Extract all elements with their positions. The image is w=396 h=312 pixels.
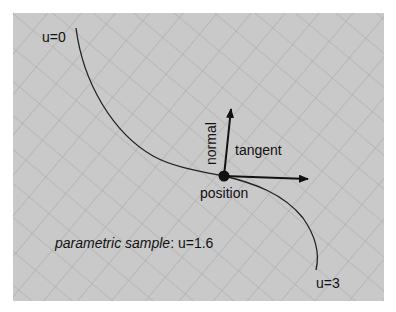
diagram-canvas: [13, 13, 384, 301]
tangent-label: tangent: [235, 142, 282, 158]
normal-label: normal: [203, 122, 219, 165]
start-label: u=0: [42, 29, 66, 45]
grid-background: [13, 13, 384, 301]
caption-value: : u=1.6: [170, 235, 213, 251]
caption-italic: parametric sample: [55, 235, 170, 251]
end-label: u=3: [316, 275, 340, 291]
diagram-panel: u=0 u=3 normal tangent position parametr…: [13, 13, 384, 301]
position-label: position: [200, 185, 248, 201]
position-point: [219, 171, 230, 182]
caption: parametric sample: u=1.6: [55, 235, 213, 251]
